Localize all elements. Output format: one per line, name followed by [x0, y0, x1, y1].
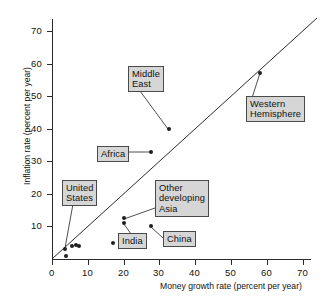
leader-line-other-developing-asia	[124, 208, 155, 219]
scatter-chart: 70 60 50 40 30 20 10 0 10 20 30 40 50 60…	[0, 0, 325, 297]
callout-united-states: United States	[62, 180, 97, 206]
y-axis-title: Inflation rate (percent per year)	[22, 67, 32, 185]
y-tick-10	[47, 226, 52, 227]
leader-line-united-states	[65, 204, 73, 248]
leader-line-layer	[0, 0, 325, 297]
x-tick-20	[124, 260, 125, 265]
y-tick-label-20: 20	[31, 188, 42, 199]
x-tick-label-40: 40	[189, 267, 200, 278]
x-tick-label-60: 60	[261, 267, 272, 278]
y-tick-label-70: 70	[31, 25, 42, 36]
x-tick-50	[231, 260, 232, 265]
y-tick-50	[47, 96, 52, 97]
callout-middle-east: Middle East	[128, 66, 164, 92]
y-tick-70	[47, 31, 52, 32]
y-tick-40	[47, 129, 52, 130]
data-point-united-states	[63, 247, 67, 251]
x-tick-70	[303, 260, 304, 265]
callout-china: China	[163, 231, 196, 247]
x-tick-label-70: 70	[297, 267, 308, 278]
callout-western-hemisphere: Western Hemisphere	[246, 96, 305, 122]
x-tick-label-30: 30	[153, 267, 164, 278]
y-tick-label-10: 10	[31, 220, 42, 231]
callout-other-developing-asia: Other developing Asia	[155, 180, 209, 217]
x-tick-label-10: 10	[82, 267, 93, 278]
callout-india: India	[118, 233, 147, 249]
leader-line-western-hemisphere	[252, 73, 260, 98]
x-tick-10	[88, 260, 89, 265]
x-tick-label-20: 20	[118, 267, 129, 278]
y-tick-30	[47, 161, 52, 162]
data-point-middle-east	[167, 127, 171, 131]
y-tick-label-50: 50	[31, 90, 42, 101]
leader-line-middle-east	[140, 91, 168, 129]
data-point-africa	[149, 150, 153, 154]
x-tick-label-0: 0	[49, 267, 54, 278]
callout-africa: Africa	[97, 146, 129, 162]
x-tick-label-50: 50	[225, 267, 236, 278]
data-point	[122, 221, 126, 225]
x-tick-40	[195, 260, 196, 265]
x-tick-0	[52, 260, 53, 265]
y-tick-label-30: 30	[31, 155, 42, 166]
x-axis-title: Money growth rate (percent per year)	[160, 281, 302, 291]
leader-line-china	[151, 227, 163, 238]
y-tick-20	[47, 194, 52, 195]
x-tick-60	[267, 260, 268, 265]
y-tick-60	[47, 64, 52, 65]
data-point-india	[111, 241, 115, 245]
x-tick-30	[159, 260, 160, 265]
y-tick-label-40: 40	[31, 123, 42, 134]
y-tick-label-60: 60	[31, 58, 42, 69]
